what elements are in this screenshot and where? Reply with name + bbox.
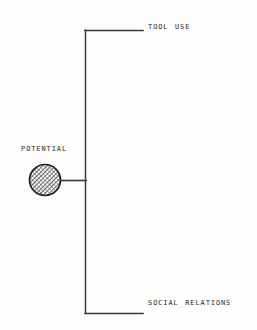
node-label-potential: Potential [21,143,67,152]
diagram-canvas: Tool Use Social Relations Potential [0,0,257,330]
branch-label-tool-use: Tool Use [148,21,190,30]
diagram-vector-layer [0,0,257,330]
branch-label-social-relations: Social Relations [148,297,231,306]
potential-node-circle-overlay [30,165,61,196]
